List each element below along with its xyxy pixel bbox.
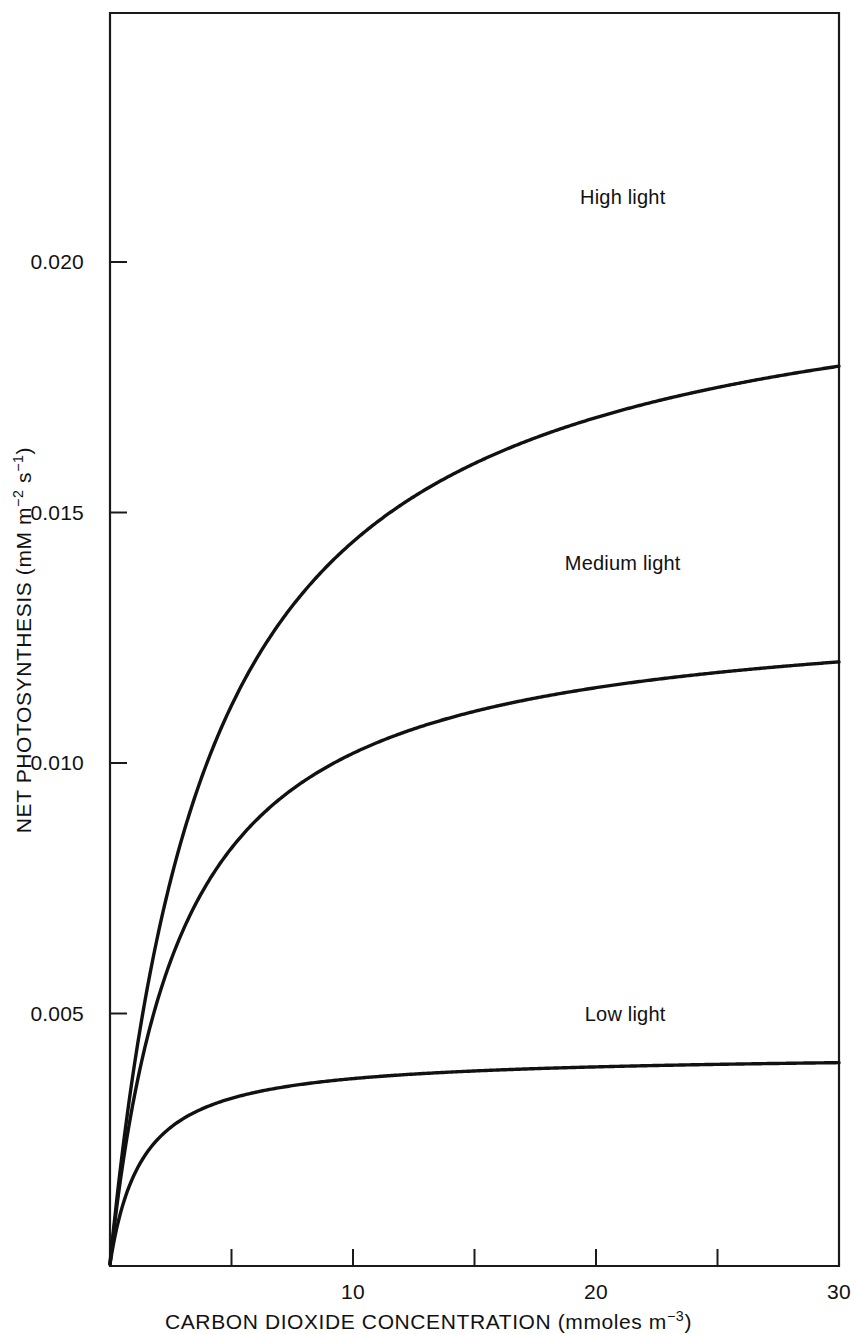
x-axis-tick-label: 20 xyxy=(584,1280,608,1304)
x-axis-title: CARBON DIOXIDE CONCENTRATION (mmoles m−3… xyxy=(0,1310,857,1334)
data-curve-high-light xyxy=(110,366,839,1264)
series-label-low-light: Low light xyxy=(585,1002,666,1025)
y-axis-title: NET PHOTOSYNTHESIS (mM m−2 s−1) xyxy=(12,446,36,832)
data-curve-low-light xyxy=(110,1063,839,1264)
x-axis-tick-label: 10 xyxy=(341,1280,365,1304)
data-curves xyxy=(110,366,839,1264)
y-axis-tick-label: 0.005 xyxy=(0,1002,84,1026)
y-axis-tick-label: 0.020 xyxy=(0,250,84,274)
plot-frame xyxy=(110,13,839,1266)
x-axis-tick-label: 30 xyxy=(827,1280,851,1304)
data-curve-medium-light xyxy=(110,662,839,1264)
x-axis-ticks xyxy=(232,1249,718,1266)
series-label-high-light: High light xyxy=(580,185,665,208)
series-label-medium-light: Medium light xyxy=(565,551,681,574)
y-axis-ticks xyxy=(110,262,127,1014)
